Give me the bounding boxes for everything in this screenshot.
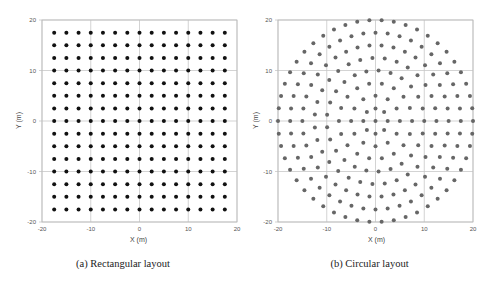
data-point: [438, 83, 442, 87]
data-point: [426, 204, 430, 208]
data-point: [365, 110, 369, 114]
data-point: [408, 132, 412, 136]
data-point: [311, 197, 315, 201]
data-point: [138, 56, 142, 60]
data-point: [211, 106, 215, 110]
data-point: [186, 81, 190, 85]
chart-rectangular-layout: -20-1001020-20-1001020 X (m) Y (m) (a) R…: [0, 0, 246, 282]
data-point: [292, 144, 296, 148]
data-point: [452, 178, 456, 182]
data-point: [138, 31, 142, 35]
data-point: [198, 207, 202, 211]
data-point: [334, 149, 338, 153]
data-point: [125, 132, 129, 136]
data-point: [338, 39, 342, 43]
data-point: [77, 119, 81, 123]
data-point: [174, 170, 178, 174]
data-point: [311, 41, 315, 45]
data-point: [446, 131, 450, 135]
data-point: [392, 152, 396, 156]
data-point: [334, 182, 338, 186]
data-point: [198, 43, 202, 47]
x-tick-label: -10: [86, 226, 95, 232]
data-point: [374, 119, 378, 123]
data-point: [162, 170, 166, 174]
data-point: [223, 132, 227, 136]
data-point: [321, 34, 325, 38]
data-point: [459, 168, 463, 172]
y-tick-label: 10: [29, 68, 36, 74]
data-point: [101, 43, 105, 47]
data-point: [423, 175, 427, 179]
data-point: [403, 188, 407, 192]
data-point: [433, 106, 437, 110]
data-point: [198, 81, 202, 85]
data-point: [138, 106, 142, 110]
data-point: [320, 150, 324, 154]
data-point: [309, 83, 313, 87]
data-point: [415, 165, 419, 169]
data-point: [358, 180, 362, 184]
data-point: [125, 119, 129, 123]
data-point: [162, 31, 166, 35]
data-point: [223, 56, 227, 60]
data-point: [315, 138, 319, 142]
data-point: [113, 43, 117, 47]
data-point: [89, 119, 93, 123]
data-point: [64, 195, 68, 199]
data-point: [383, 181, 387, 185]
data-point: [211, 31, 215, 35]
data-point: [361, 32, 365, 36]
data-point: [361, 119, 365, 123]
data-point: [355, 20, 359, 24]
data-point: [283, 82, 287, 86]
data-point: [436, 197, 440, 201]
data-point: [464, 82, 468, 86]
data-point: [302, 50, 306, 54]
data-point: [113, 207, 117, 211]
data-point: [347, 176, 351, 180]
data-point: [386, 206, 390, 210]
data-point: [459, 70, 463, 74]
data-point: [64, 182, 68, 186]
data-point: [223, 106, 227, 110]
data-point: [445, 167, 449, 171]
data-point: [361, 141, 365, 145]
data-point: [150, 195, 154, 199]
data-point: [186, 182, 190, 186]
data-point: [174, 207, 178, 211]
data-point: [186, 170, 190, 174]
data-point: [433, 132, 437, 136]
data-point: [89, 207, 93, 211]
data-point: [380, 44, 384, 48]
data-point: [138, 94, 142, 98]
data-point: [89, 157, 93, 161]
data-point: [292, 94, 296, 98]
data-point: [398, 34, 402, 38]
data-point: [383, 57, 387, 61]
chart-circular-layout: -20-1001020-20-1001020 X (m) Y (m) (b) C…: [246, 0, 493, 282]
data-point: [125, 195, 129, 199]
data-point: [174, 182, 178, 186]
data-point: [367, 82, 371, 86]
data-point: [138, 81, 142, 85]
data-point: [336, 69, 340, 73]
data-point: [101, 132, 105, 136]
data-point: [382, 110, 386, 114]
data-point: [211, 94, 215, 98]
data-point: [174, 43, 178, 47]
data-point: [186, 69, 190, 73]
data-point: [429, 52, 433, 56]
data-point: [125, 170, 129, 174]
x-tick-label: 20: [470, 226, 477, 232]
data-point: [223, 170, 227, 174]
data-point: [377, 169, 381, 173]
data-point: [355, 86, 359, 90]
data-point: [408, 106, 412, 110]
data-point: [392, 86, 396, 90]
data-point: [438, 155, 442, 159]
data-point: [288, 119, 292, 123]
data-point: [223, 119, 227, 123]
data-point: [211, 157, 215, 161]
data-point: [355, 218, 359, 222]
